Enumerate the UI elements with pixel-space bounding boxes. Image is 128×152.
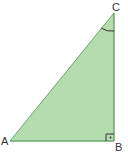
vertex-label-c: C [112,1,120,13]
vertex-label-a: A [1,135,9,147]
triangle-diagram: C B A [0,0,128,152]
right-angle-dot [110,137,112,139]
triangle-abc [10,13,114,141]
vertex-label-b: B [115,141,122,152]
